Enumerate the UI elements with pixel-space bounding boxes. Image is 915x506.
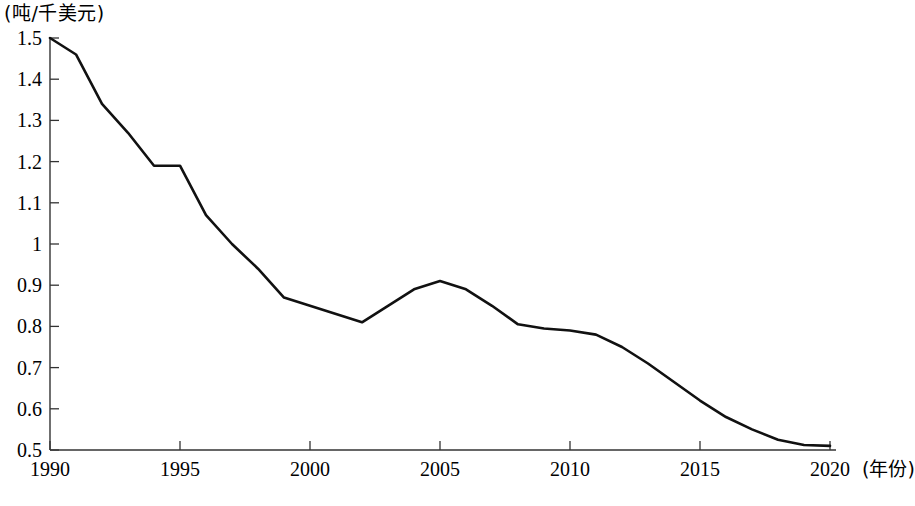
axis-lines	[50, 38, 836, 450]
data-series-line	[50, 38, 830, 446]
y-axis-ticks	[50, 38, 59, 450]
x-axis-ticks	[50, 441, 830, 450]
